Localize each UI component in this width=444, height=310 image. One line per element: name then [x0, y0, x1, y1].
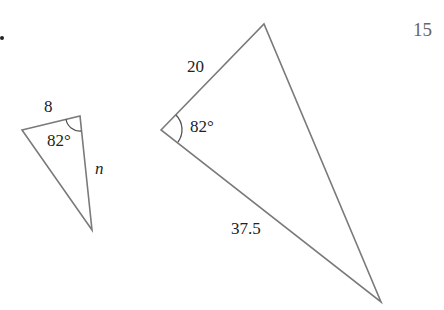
small-angle-label: 82°: [47, 132, 71, 149]
large-side-lower-label: 37.5: [231, 220, 261, 237]
problem-number: 15: [413, 20, 432, 39]
large-side-upper-label: 20: [187, 58, 204, 75]
large-angle-arc: [176, 115, 182, 142]
small-angle-arc: [66, 119, 81, 131]
triangles-figure: [0, 0, 444, 310]
small-side-top-label: 8: [44, 98, 53, 115]
large-angle-label: 82°: [190, 118, 214, 135]
small-side-right-label: n: [95, 160, 104, 177]
